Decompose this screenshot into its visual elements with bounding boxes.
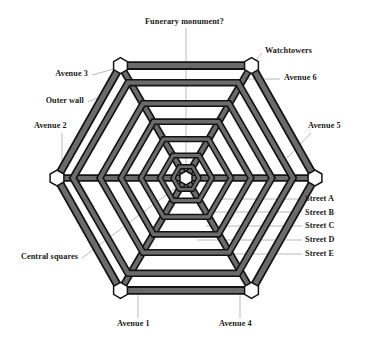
figure-canvas: Funerary monument? Watchtowers Avenue 6 … <box>0 0 384 342</box>
label-avenue-2: Avenue 2 <box>34 122 67 130</box>
watchtower-node-northeast[interactable] <box>245 58 259 74</box>
label-avenue-4: Avenue 4 <box>219 320 252 328</box>
label-outer-wall: Outer wall <box>24 97 84 105</box>
label-avenue-1: Avenue 1 <box>117 320 150 328</box>
label-funerary-monument: Funerary monument? <box>145 18 224 26</box>
label-avenue-6: Avenue 6 <box>284 74 317 82</box>
watchtower-node-east[interactable] <box>308 170 322 186</box>
label-watchtowers: Watchtowers <box>265 47 312 55</box>
label-street-d: Street D <box>305 236 335 244</box>
funerary-monument-node[interactable] <box>180 171 192 185</box>
watchtower-node-northwest[interactable] <box>114 58 128 74</box>
label-street-c: Street C <box>305 222 335 230</box>
watchtower-node-southeast[interactable] <box>245 282 259 298</box>
label-street-a: Street A <box>305 195 334 203</box>
hexagonal-city-plan-diagram <box>0 0 384 342</box>
label-central-squares: Central squares <box>8 253 78 261</box>
label-avenue-5: Avenue 5 <box>308 122 341 130</box>
watchtower-node-west[interactable] <box>50 170 64 186</box>
label-street-e: Street E <box>305 250 334 258</box>
label-avenue-3: Avenue 3 <box>32 70 88 78</box>
watchtower-node-southwest[interactable] <box>114 282 128 298</box>
label-street-b: Street B <box>305 209 334 217</box>
